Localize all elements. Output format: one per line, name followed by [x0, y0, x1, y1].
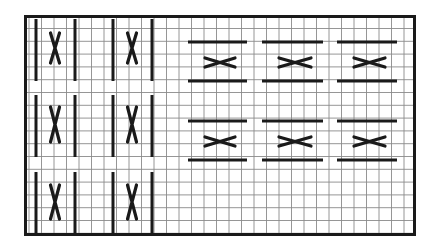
background: [0, 0, 438, 247]
pattern-chart: [0, 0, 438, 247]
